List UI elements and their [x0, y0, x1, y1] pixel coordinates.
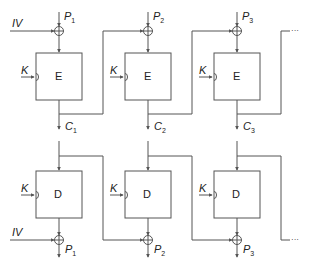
ciphertext-label: C2 [154, 120, 166, 134]
enc-stage-3: P3 E K C3 ··· [199, 10, 299, 134]
encryption-row: IV P1 E K C1 P2 [10, 10, 299, 134]
plaintext-label: P3 [242, 10, 253, 24]
block-label: D [54, 188, 62, 200]
block-label: E [55, 70, 62, 82]
plaintext-label: P2 [153, 10, 164, 24]
continuation-dots: ··· [291, 26, 299, 35]
block-label: D [143, 188, 151, 200]
cbc-diagram: IV P1 E K C1 P2 [0, 0, 311, 273]
plaintext-label: P1 [64, 10, 75, 24]
key-label: K [21, 182, 29, 194]
plaintext-output-label: P2 [154, 243, 165, 257]
xor-icon [55, 27, 64, 36]
xor-icon [233, 236, 242, 245]
decryption-row: D K IV P1 D K [10, 141, 299, 257]
xor-icon [144, 236, 153, 245]
block-label: D [232, 188, 240, 200]
iv-label-dec: IV [12, 226, 24, 238]
continuation-dots: ··· [291, 235, 299, 244]
key-label: K [110, 64, 118, 76]
ciphertext-label: C1 [65, 120, 77, 134]
iv-label-enc: IV [12, 17, 24, 29]
block-label: E [233, 70, 240, 82]
plaintext-output-label: P1 [65, 243, 76, 257]
ciphertext-label: C3 [243, 120, 255, 134]
xor-icon [55, 236, 64, 245]
key-label: K [199, 64, 207, 76]
plaintext-output-label: P3 [243, 243, 254, 257]
xor-icon [233, 27, 242, 36]
key-label: K [21, 64, 29, 76]
xor-icon [144, 27, 153, 36]
key-label: K [110, 182, 118, 194]
dec-stage-1: D K IV P1 [10, 141, 143, 257]
key-label: K [199, 182, 207, 194]
block-label: E [144, 70, 151, 82]
